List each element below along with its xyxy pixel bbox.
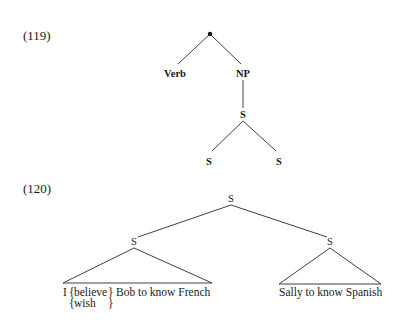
edge-root-verb bbox=[178, 34, 210, 64]
leaf-right: Sally to know Spanish bbox=[279, 286, 382, 299]
node-s-right: S bbox=[276, 156, 282, 167]
triangle-right bbox=[279, 248, 381, 284]
syntax-tree-diagrams: (119) Verb NP S S S (120) S S S I { beli… bbox=[0, 0, 405, 326]
node-np: NP bbox=[236, 68, 251, 79]
node-s-left: S bbox=[131, 236, 137, 247]
node-s-top: S bbox=[228, 193, 234, 204]
node-verb: Verb bbox=[164, 68, 186, 79]
leaf-left-post: Bob to know French bbox=[116, 286, 210, 298]
leaf-left-option-2: wish bbox=[74, 297, 96, 309]
example-119: (119) Verb NP S S S bbox=[23, 28, 282, 167]
example-number-119: (119) bbox=[23, 28, 51, 43]
triangle-left bbox=[63, 248, 212, 283]
edge-top-right bbox=[231, 205, 327, 237]
example-number-120: (120) bbox=[23, 181, 51, 196]
edge-root-np bbox=[210, 34, 241, 64]
leaf-left-pre: I bbox=[63, 286, 67, 298]
node-s-left: S bbox=[206, 156, 212, 167]
edge-s-right bbox=[243, 121, 276, 151]
node-s-right: S bbox=[327, 236, 333, 247]
edge-top-left bbox=[138, 205, 231, 237]
example-120: (120) S S S I { believe } Bob to know Fr… bbox=[23, 181, 382, 309]
node-s-mid: S bbox=[240, 109, 246, 120]
left-brace-close-bottom: } bbox=[108, 297, 114, 309]
edge-s-left bbox=[212, 121, 243, 151]
